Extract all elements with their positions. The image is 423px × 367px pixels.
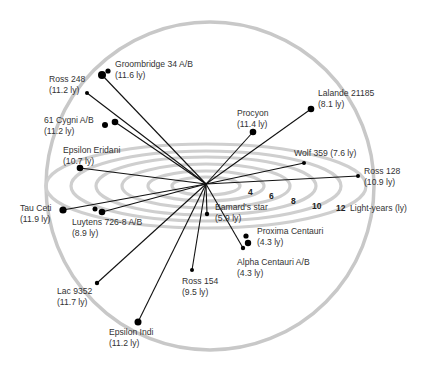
ring-number: 8 <box>291 196 296 206</box>
star-name: Ross 248 <box>49 74 86 84</box>
star-label: Ross 128(10.9 ly) <box>364 166 401 187</box>
ring-number: 10 <box>312 201 322 211</box>
star-distance: (11.7 ly) <box>57 297 88 307</box>
star-distance: (11.6 ly) <box>115 70 146 80</box>
star-name: Tau Ceti <box>20 203 52 213</box>
star-dot <box>241 246 245 250</box>
ring-number: 6 <box>269 191 274 201</box>
star-dot <box>243 233 248 238</box>
star-name: Bamard's star <box>215 202 268 212</box>
star-label: Luytens 726-8 A/B(8.9 ly) <box>72 217 142 238</box>
star-distance: (11.2 ly) <box>44 126 75 136</box>
star-dot <box>112 119 119 126</box>
star-name: Wolf 359 (7.6 ly) <box>294 148 357 158</box>
star-dot <box>102 122 108 128</box>
star-name: Procyon <box>237 108 269 118</box>
star-distance: (10.7 ly) <box>63 156 94 166</box>
star-dot <box>99 209 106 216</box>
star-label: Tau Ceti(11.9 ly) <box>20 203 52 224</box>
star-distance: (9.5 ly) <box>182 287 208 297</box>
star-dot <box>245 240 251 246</box>
star-distance: (5.9 ly) <box>215 213 241 223</box>
star-name: Ross 128 <box>364 166 401 176</box>
star-label: Lalande 21185(8.1 ly) <box>318 88 374 109</box>
star-dot <box>105 68 110 73</box>
star-label: 61 Cygni A/B(11.2 ly) <box>44 115 94 136</box>
ring-number: 12 <box>336 203 346 213</box>
star-name: Luytens 726-8 A/B <box>72 217 142 227</box>
star-name: Ross 154 <box>182 276 219 286</box>
star-label: Groombridge 34 A/B(11.6 ly) <box>115 59 193 80</box>
star-map-diagram: Groombridge 34 A/B(11.6 ly)Ross 248(11.2… <box>0 0 423 367</box>
star-dot <box>356 174 360 178</box>
ring-number: 4 <box>248 187 253 197</box>
star-label: Alpha Centauri A/B(4.3 ly) <box>237 257 310 278</box>
units-label: Light-years (ly) <box>350 203 407 213</box>
star-distance: (8.1 ly) <box>318 99 344 109</box>
star-distance: (8.9 ly) <box>72 228 98 238</box>
star-distance: (10.9 ly) <box>364 177 395 187</box>
star-dot <box>77 165 84 172</box>
star-label: Lac 9352(11.7 ly) <box>57 286 93 307</box>
star-dot <box>93 207 98 212</box>
star-dot <box>308 106 315 113</box>
star-name: 61 Cygni A/B <box>44 115 94 125</box>
star-dot <box>302 161 306 165</box>
star-name: Lalande 21185 <box>318 88 374 98</box>
star-distance: (11.9 ly) <box>20 214 51 224</box>
star-distance: (11.2 ly) <box>49 85 80 95</box>
star-dot <box>135 319 142 326</box>
star-dot <box>59 206 66 213</box>
star-dot <box>85 91 89 95</box>
star-distance: (11.2 ly) <box>109 338 140 348</box>
star-label: Procyon(11.4 ly) <box>237 108 269 129</box>
star-name: Proxima Centauri <box>257 226 323 236</box>
star-name: Epsilon Indi <box>109 327 154 337</box>
star-name: Epsilon Eridani <box>63 145 120 155</box>
star-label: Proxima Centauri(4.3 ly) <box>257 226 323 247</box>
star-label: Ross 154(9.5 ly) <box>182 276 219 297</box>
star-name: Groombridge 34 A/B <box>115 59 193 69</box>
star-dot <box>205 212 209 216</box>
star-dot <box>190 268 194 272</box>
star-name: Alpha Centauri A/B <box>237 257 310 267</box>
star-distance: (4.3 ly) <box>257 237 283 247</box>
star-name: Lac 9352 <box>57 286 93 296</box>
star-distance: (4.3 ly) <box>237 268 263 278</box>
star-dot <box>95 281 99 285</box>
star-dot <box>98 71 106 79</box>
star-label: Wolf 359 (7.6 ly) <box>294 148 357 158</box>
star-dot <box>250 129 257 136</box>
star-distance: (11.4 ly) <box>237 119 268 129</box>
